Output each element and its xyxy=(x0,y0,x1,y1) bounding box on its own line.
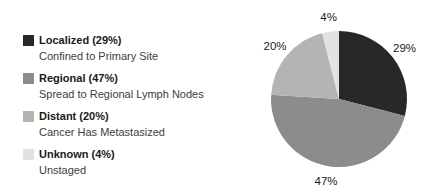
pie-slice-label-unknown: 4% xyxy=(320,11,337,23)
pie-slice-label-distant: 20% xyxy=(263,40,286,52)
pie-chart-figure: Localized (29%) Confined to Primary Site… xyxy=(0,0,434,191)
pie-slice-label-localized: 29% xyxy=(393,42,416,54)
pie-slice-label-regional: 47% xyxy=(314,175,337,187)
pie-chart: 29%47%20%4% xyxy=(0,0,434,191)
